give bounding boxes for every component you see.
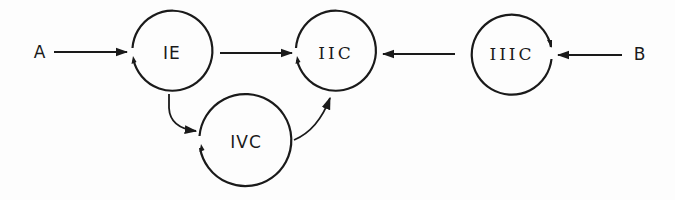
node-iic-label: IIC: [318, 43, 353, 63]
node-ie-label: IE: [163, 43, 181, 63]
node-iiic-label: IIIC: [489, 44, 534, 64]
node-iiic: IIIC: [472, 15, 552, 95]
input-label-a: A: [34, 42, 47, 62]
edge-ivc-to-iic: [294, 98, 330, 140]
edge-ie-to-ivc: [169, 94, 196, 131]
node-ivc-label: IVC: [230, 132, 262, 152]
iiic-self-loop-arrowhead-icon: [547, 40, 552, 48]
input-label-b: B: [634, 44, 647, 64]
ivc-self-loop-arrowhead-icon: [200, 144, 205, 152]
iic-self-loop-arrowhead-icon: [296, 56, 301, 64]
node-ivc: IVC: [200, 94, 292, 186]
node-ie: IE: [132, 11, 213, 91]
ie-self-loop-arrowhead-icon: [132, 56, 137, 64]
node-iic: IIC: [296, 11, 376, 91]
state-diagram: A IE IIC IIIC B IVC: [0, 0, 675, 200]
